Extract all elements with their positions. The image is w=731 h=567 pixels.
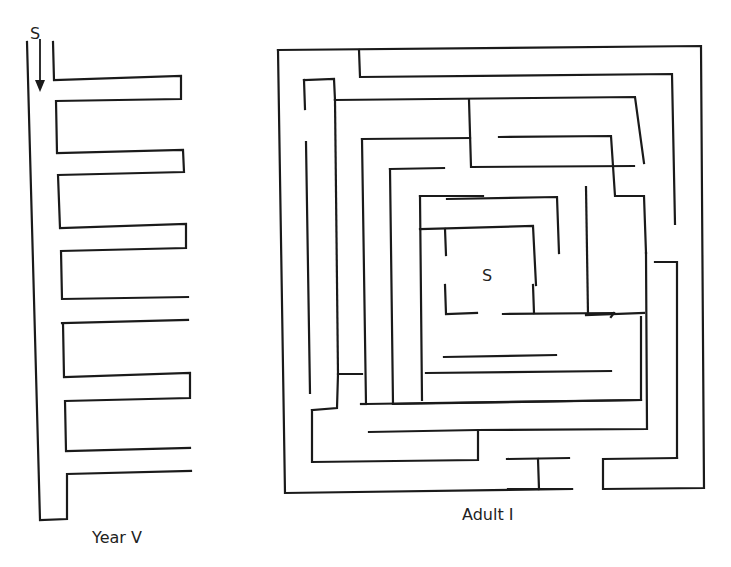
maze-wall: [63, 323, 190, 451]
adult-i-caption: Adult I: [462, 505, 513, 524]
maze-wall: [426, 371, 611, 373]
maze-wall: [655, 262, 677, 458]
maze-wall: [390, 169, 393, 404]
maze-wall: [335, 100, 338, 374]
maze-wall: [306, 142, 310, 393]
maze-wall: [304, 80, 305, 109]
down-arrow-icon: [35, 40, 45, 92]
maze-wall: [444, 355, 556, 357]
maze-figure: [0, 0, 731, 567]
maze-wall: [420, 196, 422, 400]
maze-wall: [469, 100, 634, 167]
maze-wall: [586, 187, 588, 315]
maze-wall: [62, 320, 188, 323]
maze-wall: [390, 168, 444, 169]
maze-wall: [420, 226, 536, 285]
year-v-maze: [27, 42, 191, 520]
maze-wall: [538, 459, 539, 489]
year-v-start-label: S: [30, 24, 40, 43]
maze-wall: [278, 50, 572, 493]
maze-wall: [447, 197, 559, 253]
maze-wall: [312, 374, 362, 410]
maze-wall: [362, 139, 641, 404]
maze-wall: [304, 79, 335, 100]
maze-wall: [533, 285, 534, 313]
maze-wall: [445, 285, 477, 314]
maze-wall: [53, 42, 188, 299]
maze-wall: [445, 229, 446, 255]
maze-wall: [362, 138, 470, 139]
adult-i-start-label: S: [482, 266, 492, 285]
maze-wall: [335, 97, 644, 163]
maze-wall: [499, 136, 646, 253]
year-v-caption: Year V: [92, 528, 142, 547]
maze-wall: [312, 410, 478, 462]
maze-wall: [369, 253, 647, 432]
